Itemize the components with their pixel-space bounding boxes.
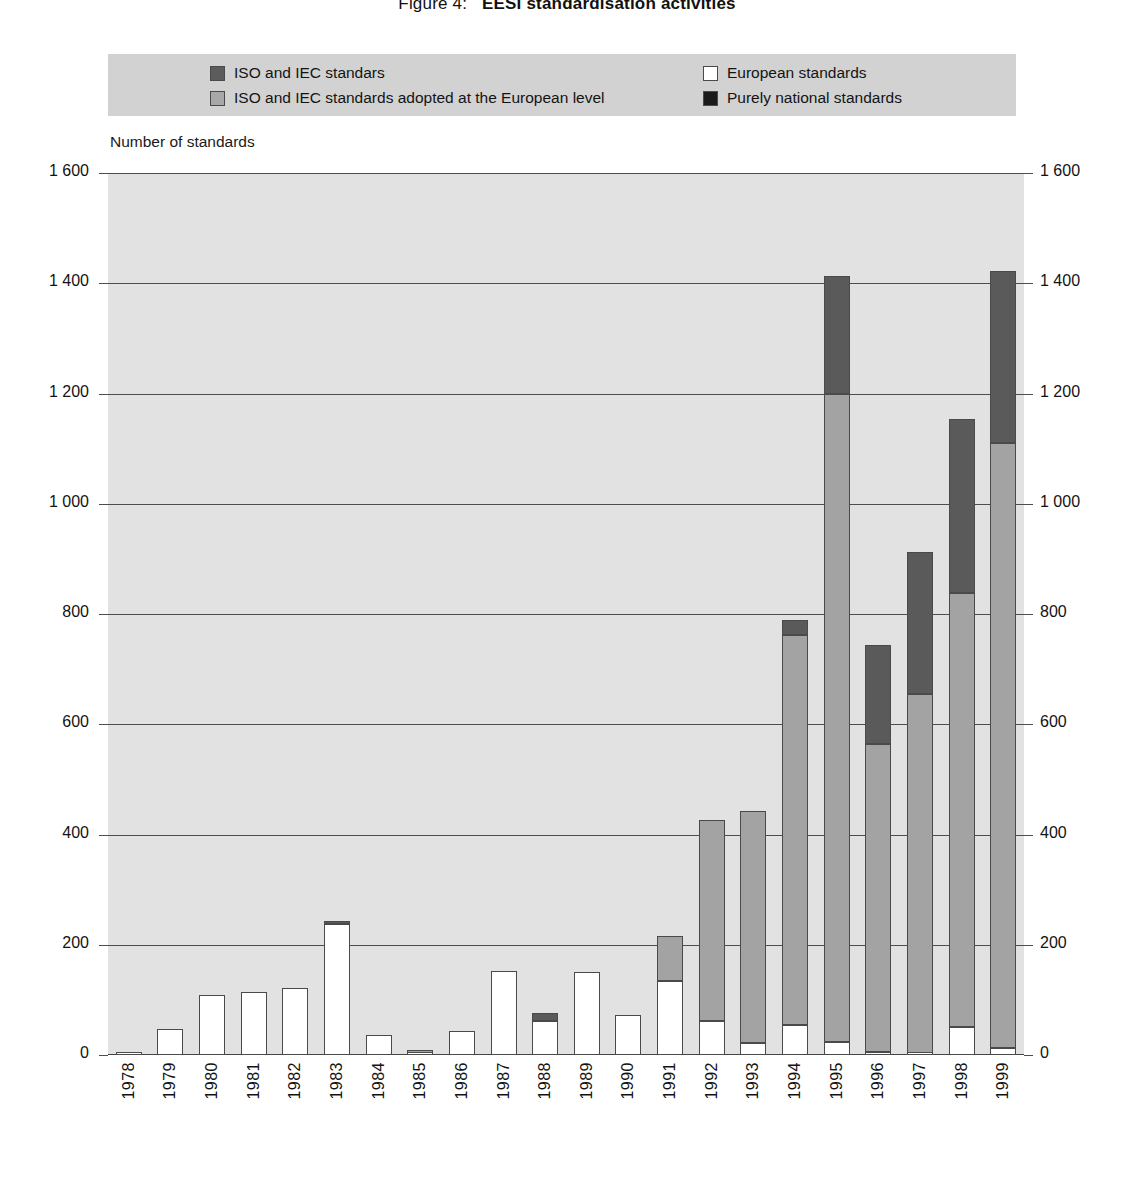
bar-group[interactable]: [241, 173, 267, 1055]
bar-segment-european[interactable]: [491, 971, 517, 1055]
bar-segment-european[interactable]: [615, 1015, 641, 1055]
bar-segment-iso-european[interactable]: [407, 1050, 433, 1053]
y-axis-tick-left: [99, 173, 108, 174]
y-axis-tick-right: [1024, 724, 1033, 725]
bar-segment-iso-european[interactable]: [907, 694, 933, 1052]
bar-segment-european[interactable]: [699, 1021, 725, 1055]
bar-segment-iso-european[interactable]: [740, 811, 766, 1043]
x-axis-label-1994: 1994: [786, 1062, 804, 1100]
bar-segment-iso[interactable]: [990, 271, 1016, 443]
bar-segment-european[interactable]: [324, 924, 350, 1055]
bar-segment-iso-european[interactable]: [699, 820, 725, 1021]
bar-segment-iso-european[interactable]: [657, 936, 683, 981]
bar-group[interactable]: [574, 173, 600, 1055]
bar-group[interactable]: [366, 173, 392, 1055]
bar-segment-iso[interactable]: [324, 921, 350, 924]
bar-segment-iso[interactable]: [865, 645, 891, 744]
bar-segment-european[interactable]: [574, 972, 600, 1055]
bar-segment-iso-european[interactable]: [824, 394, 850, 1042]
bar-group[interactable]: [324, 173, 350, 1055]
bar-segment-european[interactable]: [199, 995, 225, 1055]
y-axis-label-left: 1 400: [49, 272, 89, 290]
bar-segment-iso[interactable]: [824, 276, 850, 394]
bar-group[interactable]: [657, 173, 683, 1055]
y-axis-tick-left: [99, 394, 108, 395]
bar-group[interactable]: [782, 173, 808, 1055]
y-axis-tick-right: [1024, 945, 1033, 946]
bar-segment-european[interactable]: [116, 1052, 142, 1055]
bar-segment-iso-european[interactable]: [949, 593, 975, 1027]
x-axis-label-1983: 1983: [328, 1062, 346, 1100]
bar-group[interactable]: [449, 173, 475, 1055]
bar-group[interactable]: [491, 173, 517, 1055]
y-axis-label-left: 200: [62, 934, 89, 952]
bar-segment-iso[interactable]: [782, 620, 808, 635]
bar-segment-european[interactable]: [740, 1043, 766, 1055]
bar-group[interactable]: [532, 173, 558, 1055]
bar-segment-iso-european[interactable]: [865, 744, 891, 1052]
y-axis-label-right: 1 200: [1040, 383, 1080, 401]
y-axis-label-right: 1 000: [1040, 493, 1080, 511]
y-axis-tick-right: [1024, 173, 1033, 174]
y-axis-label-left: 600: [62, 713, 89, 731]
bar-group[interactable]: [199, 173, 225, 1055]
y-axis-label-right: 600: [1040, 713, 1067, 731]
x-axis-label-1998: 1998: [953, 1062, 971, 1100]
x-axis-label-1979: 1979: [161, 1062, 179, 1100]
bar-group[interactable]: [865, 173, 891, 1055]
bar-segment-iso[interactable]: [949, 419, 975, 593]
bar-segment-european[interactable]: [449, 1031, 475, 1055]
bar-group[interactable]: [824, 173, 850, 1055]
y-axis-tick-right: [1024, 835, 1033, 836]
bar-segment-european[interactable]: [657, 981, 683, 1055]
chart-legend: ISO and IEC standars ISO and IEC standar…: [108, 54, 1016, 116]
bar-segment-european[interactable]: [366, 1035, 392, 1055]
x-axis-label-1986: 1986: [453, 1062, 471, 1100]
bar-segment-iso-european[interactable]: [990, 443, 1016, 1048]
bar-group[interactable]: [990, 173, 1016, 1055]
bar-group[interactable]: [116, 173, 142, 1055]
bar-segment-european[interactable]: [990, 1048, 1016, 1055]
bar-group[interactable]: [615, 173, 641, 1055]
bar-group[interactable]: [949, 173, 975, 1055]
bar-segment-iso-european[interactable]: [782, 635, 808, 1025]
figure-number: Figure 4:: [398, 0, 467, 13]
bar-group[interactable]: [282, 173, 308, 1055]
bar-segment-european[interactable]: [157, 1029, 183, 1055]
bar-segment-european[interactable]: [824, 1042, 850, 1055]
y-axis-tick-left: [99, 283, 108, 284]
x-axis-labels: 1978197919801981198219831984198519861987…: [108, 1062, 1024, 1152]
bar-group[interactable]: [699, 173, 725, 1055]
legend-swatch-european-icon: [703, 66, 718, 81]
y-axis-tick-right: [1024, 283, 1033, 284]
y-axis-tick-right: [1024, 504, 1033, 505]
bar-segment-iso[interactable]: [907, 552, 933, 694]
bar-segment-european[interactable]: [532, 1021, 558, 1055]
y-axis-label-left: 1 600: [49, 162, 89, 180]
x-axis-label-1996: 1996: [869, 1062, 887, 1100]
bar-segment-european[interactable]: [282, 988, 308, 1055]
bar-segment-european[interactable]: [241, 992, 267, 1055]
bar-segment-european[interactable]: [782, 1025, 808, 1055]
y-axis-label-right: 200: [1040, 934, 1067, 952]
bar-group[interactable]: [907, 173, 933, 1055]
legend-swatch-iso-european-icon: [210, 91, 225, 106]
y-axis-tick-right: [1024, 1055, 1033, 1056]
legend-item-iso: ISO and IEC standars: [210, 61, 605, 85]
bar-group[interactable]: [407, 173, 433, 1055]
x-axis-label-1982: 1982: [286, 1062, 304, 1100]
bar-group[interactable]: [740, 173, 766, 1055]
y-axis-label-right: 1 400: [1040, 272, 1080, 290]
y-axis-tick-left: [99, 945, 108, 946]
bar-segment-iso[interactable]: [532, 1013, 558, 1021]
bar-group[interactable]: [157, 173, 183, 1055]
legend-item-national: Purely national standards: [703, 86, 902, 110]
y-axis-label-left: 1 000: [49, 493, 89, 511]
bar-segment-european[interactable]: [949, 1027, 975, 1055]
figure-title-text: EESI standardisation activities: [482, 0, 736, 13]
y-axis-tick-right: [1024, 394, 1033, 395]
y-axis-label-right: 0: [1040, 1044, 1049, 1062]
bar-segment-european[interactable]: [865, 1052, 891, 1055]
x-axis-label-1981: 1981: [245, 1062, 263, 1100]
y-axis-tick-right: [1024, 614, 1033, 615]
